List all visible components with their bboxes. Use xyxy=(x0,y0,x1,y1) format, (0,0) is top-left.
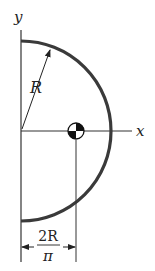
radius-label: R xyxy=(29,78,42,97)
fraction-numerator: 2R xyxy=(38,228,58,244)
centroid-icon xyxy=(68,123,84,139)
semicircle-arc-diagram: y x R 2R π xyxy=(0,0,155,271)
y-axis-label: y xyxy=(13,8,23,26)
x-axis-label: x xyxy=(136,122,145,140)
centroid-distance-label: 2R π xyxy=(37,228,60,265)
fraction-denominator: π xyxy=(42,247,54,265)
